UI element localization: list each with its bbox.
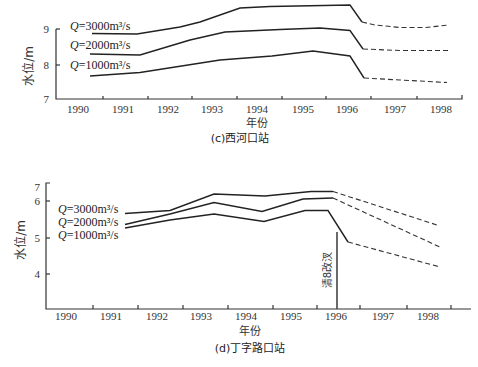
chart-d-xtick-label-1998: 1998 xyxy=(417,310,440,322)
chart-c-dashed-q1000 xyxy=(364,78,447,83)
chart-d-label-q2000: Q=2000m³/s xyxy=(58,215,119,229)
chart-c-ylabel: 水位/m xyxy=(21,46,36,86)
chart-d-ytick-label-5: 5 xyxy=(35,232,41,244)
chart-c-line-q3000 xyxy=(92,5,362,34)
chart-c-label-q2000: Q=2000m³/s xyxy=(70,38,131,52)
chart-d-xtick-label-1996: 1996 xyxy=(325,310,348,322)
chart-c-line-q2000 xyxy=(90,28,363,55)
chart-c-xtick-label-1990: 1990 xyxy=(67,103,90,115)
chart-c-xlabel: 年份 xyxy=(246,116,268,130)
chart-d-label-q1000: Q=1000m³/s xyxy=(58,228,119,242)
chart-c-caption: (c)西河口站 xyxy=(211,131,270,145)
chart-d-xtick-label-1994: 1994 xyxy=(235,310,258,322)
chart-d-dashed-q2000 xyxy=(333,198,442,248)
chart-d-xtick-label-1995: 1995 xyxy=(280,310,303,322)
chart-c-dashed-q3000 xyxy=(362,22,449,28)
chart-d-xtick-label-1992: 1992 xyxy=(146,310,168,322)
chart-c-label-q1000: Q=1000m³/s xyxy=(70,58,131,72)
figure: 9 8 7 1990 1991 1992 1993 1994 1995 1996… xyxy=(0,0,478,367)
chart-d: 7 6 5 4 1990 1991 1992 1993 1994 1995 19… xyxy=(13,181,471,355)
chart-d-ylabel: 水位/m xyxy=(13,220,28,260)
chart-d-line-q3000 xyxy=(125,192,333,214)
chart-c-xtick-label-1993: 1993 xyxy=(201,103,224,115)
chart-d-ytick-label-7: 7 xyxy=(35,181,41,193)
chart-c: 9 8 7 1990 1991 1992 1993 1994 1995 1996… xyxy=(21,5,462,145)
chart-d-dashed-q1000 xyxy=(348,242,440,267)
chart-d-xlabel: 年份 xyxy=(239,324,261,338)
chart-c-xtick-label-1995: 1995 xyxy=(292,103,315,115)
chart-c-label-q3000: Q=3000m³/s xyxy=(70,19,131,33)
chart-c-xtick-label-1997: 1997 xyxy=(384,103,407,115)
chart-d-xtick-label-1991: 1991 xyxy=(100,310,122,322)
chart-c-xtick-label-1994: 1994 xyxy=(246,103,269,115)
chart-c-dashed-q2000 xyxy=(363,49,449,51)
chart-d-annotation-text: 清8改汊 xyxy=(321,252,333,288)
chart-c-ytick-label-9: 9 xyxy=(44,23,50,35)
chart-d-line-q1000 xyxy=(125,211,348,243)
chart-d-ytick-label-6: 6 xyxy=(35,195,41,207)
chart-d-xtick-label-1990: 1990 xyxy=(55,310,78,322)
chart-d-xtick-label-1997: 1997 xyxy=(372,310,395,322)
chart-c-xtick-label-1992: 1992 xyxy=(157,103,179,115)
chart-d-dashed-q3000 xyxy=(333,192,437,226)
chart-c-xtick-label-1996: 1996 xyxy=(336,103,359,115)
chart-c-ytick-label-8: 8 xyxy=(44,59,50,71)
chart-d-ytick-label-4: 4 xyxy=(35,268,41,280)
chart-c-ytick-label-7: 7 xyxy=(44,93,50,105)
chart-d-label-q3000: Q=3000m³/s xyxy=(58,202,119,216)
chart-d-caption: (d)丁字路口站 xyxy=(215,341,286,355)
chart-c-xtick-label-1991: 1991 xyxy=(112,103,134,115)
chart-c-xtick-label-1998: 1998 xyxy=(430,103,453,115)
chart-d-xtick-label-1993: 1993 xyxy=(190,310,213,322)
